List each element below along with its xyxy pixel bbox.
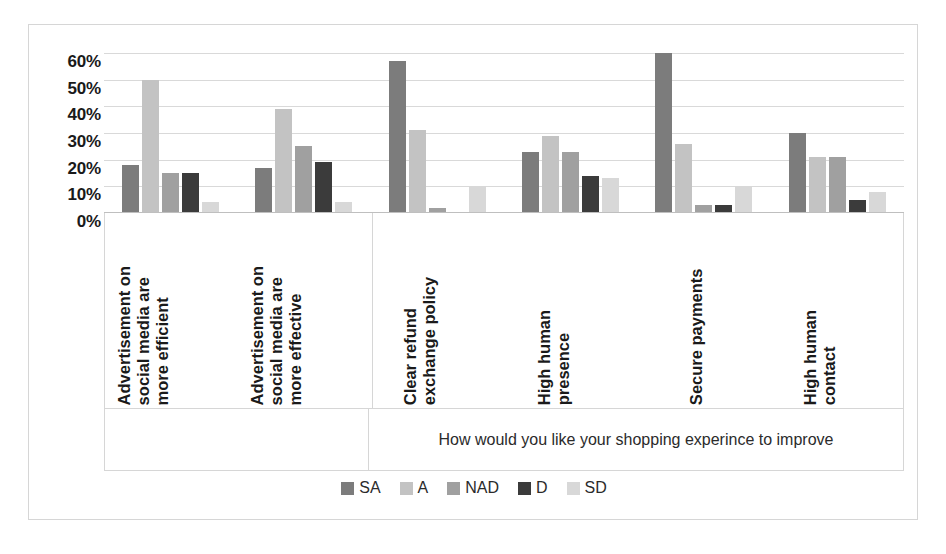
- bar-a: [142, 80, 159, 213]
- category-label: High human presence: [534, 219, 572, 405]
- category-section: Clear refund exchange policyHigh human p…: [372, 213, 906, 408]
- bar-a: [542, 136, 559, 213]
- axis-group-box-right: How would you like your shopping experin…: [368, 409, 904, 471]
- bar-group: [771, 53, 904, 213]
- legend-swatch-icon: [567, 482, 580, 495]
- legend-item[interactable]: A: [400, 480, 429, 496]
- legend-label: D: [536, 480, 548, 496]
- bar-sa: [522, 152, 539, 213]
- category-cell: Clear refund exchange policy: [373, 213, 506, 408]
- y-axis: 60%50%40%30%20%10%0%: [49, 45, 101, 221]
- category-cell: Advertisement on social media are more e…: [105, 213, 238, 408]
- legend-swatch-icon: [341, 482, 354, 495]
- bars-layer: [104, 53, 904, 213]
- legend-item[interactable]: NAD: [447, 480, 499, 496]
- y-axis-tick-label: 10%: [68, 186, 101, 203]
- chart-container: 60%50%40%30%20%10%0% Advertisement on so…: [28, 24, 918, 520]
- legend-swatch-icon: [518, 482, 531, 495]
- legend-item[interactable]: D: [518, 480, 548, 496]
- legend-swatch-icon: [400, 482, 413, 495]
- bar-group: [504, 53, 637, 213]
- bar-sa: [122, 165, 139, 213]
- legend-item[interactable]: SA: [341, 480, 380, 496]
- bar-a: [675, 144, 692, 213]
- category-label: Secure payments: [687, 219, 706, 405]
- bar-d: [582, 176, 599, 213]
- bar-sa: [389, 61, 406, 213]
- bar-sd: [735, 186, 752, 213]
- y-axis-tick-label: 0%: [77, 213, 101, 230]
- bar-nad: [295, 146, 312, 213]
- category-label: Clear refund exchange policy: [401, 219, 439, 405]
- bar-group: [104, 53, 237, 213]
- bar-sa: [255, 168, 272, 213]
- bar-sd: [469, 186, 486, 213]
- axis-group-box-left: [104, 409, 369, 471]
- chart-legend: SAANADDSD: [29, 480, 919, 496]
- legend-label: NAD: [465, 480, 499, 496]
- bar-group: [637, 53, 770, 213]
- legend-swatch-icon: [447, 482, 460, 495]
- plot-area: [104, 53, 904, 213]
- category-cell: Secure payments: [639, 213, 772, 408]
- category-cell: High human contact: [773, 213, 906, 408]
- y-axis-tick-label: 20%: [68, 160, 101, 177]
- legend-item[interactable]: SD: [567, 480, 607, 496]
- legend-label: SA: [359, 480, 380, 496]
- y-axis-tick-label: 40%: [68, 106, 101, 123]
- category-section: Advertisement on social media are more e…: [105, 213, 372, 408]
- y-axis-tick-label: 60%: [68, 53, 101, 70]
- y-axis-tick-label: 50%: [68, 80, 101, 97]
- bar-sd: [602, 178, 619, 213]
- bar-sd: [869, 192, 886, 213]
- category-label: Advertisement on social media are more e…: [248, 219, 305, 405]
- bar-d: [315, 162, 332, 213]
- bar-a: [409, 130, 426, 213]
- bar-d: [182, 173, 199, 213]
- bar-nad: [829, 157, 846, 213]
- category-cell: Advertisement on social media are more e…: [238, 213, 371, 408]
- y-axis-tick-label: 30%: [68, 133, 101, 150]
- category-label-boxes: Advertisement on social media are more e…: [104, 213, 904, 409]
- legend-label: A: [418, 480, 429, 496]
- bar-nad: [562, 152, 579, 213]
- bar-sa: [655, 53, 672, 213]
- bar-a: [275, 109, 292, 213]
- bar-group: [371, 53, 504, 213]
- bar-nad: [162, 173, 179, 213]
- bar-sa: [789, 133, 806, 213]
- bar-group: [237, 53, 370, 213]
- bar-d: [849, 200, 866, 213]
- category-label: Advertisement on social media are more e…: [114, 219, 171, 405]
- category-cell: High human presence: [506, 213, 639, 408]
- legend-label: SD: [585, 480, 607, 496]
- category-label: High human contact: [801, 219, 839, 405]
- x-axis-title: How would you like your shopping experin…: [429, 429, 844, 450]
- bar-a: [809, 157, 826, 213]
